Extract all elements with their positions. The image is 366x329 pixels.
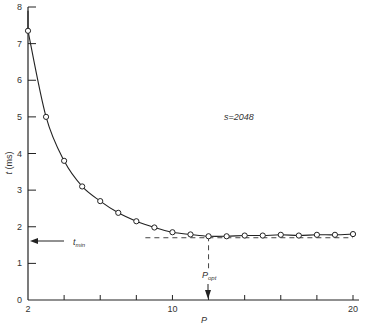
axis-ticks: 01234567821020 [17, 2, 358, 314]
y-tick-label: 7 [17, 39, 22, 49]
x-tick-label: 10 [167, 304, 177, 314]
data-point-marker [350, 231, 355, 236]
x-tick-label: 2 [25, 304, 30, 314]
axes [28, 7, 359, 300]
x-axis-label: P [201, 315, 207, 325]
data-point-marker [80, 184, 85, 189]
chart-plot: 01234567821020 t (ms) P s=2048 tmin Popt [0, 0, 366, 329]
y-axis-label: t (ms) [4, 151, 14, 174]
data-point-marker [134, 219, 139, 224]
data-point-marker [98, 199, 103, 204]
x-tick-label: 20 [348, 304, 358, 314]
data-point-marker [62, 158, 67, 163]
data-point-marker [224, 234, 229, 239]
y-tick-label: 3 [17, 185, 22, 195]
data-point-marker [188, 232, 193, 237]
popt-label: Popt [202, 270, 217, 281]
fitted-curve [28, 11, 353, 237]
data-point-marker [314, 232, 319, 237]
data-point-marker [332, 232, 337, 237]
y-tick-label: 8 [17, 2, 22, 12]
data-point-marker [206, 234, 211, 239]
data-point-marker [260, 233, 265, 238]
popt-arrowhead-icon [205, 290, 211, 299]
data-point-marker [242, 233, 247, 238]
y-tick-label: 6 [17, 75, 22, 85]
y-tick-label: 2 [17, 222, 22, 232]
data-point-marker [43, 114, 48, 119]
y-tick-label: 0 [17, 295, 22, 305]
data-point-marker [296, 233, 301, 238]
tmin-annotation: tmin [30, 237, 86, 248]
data-points [25, 28, 355, 239]
data-point-marker [25, 28, 30, 33]
data-point-marker [152, 225, 157, 230]
tmin-arrowhead-icon [30, 238, 38, 244]
y-axis-label-main: t [4, 172, 14, 175]
tmin-label: tmin [73, 237, 86, 248]
data-point-marker [278, 232, 283, 237]
popt-annotation: Popt [202, 270, 217, 299]
y-tick-label: 4 [17, 149, 22, 159]
y-axis-label-unit: (ms) [4, 151, 14, 169]
y-tick-label: 1 [17, 258, 22, 268]
data-point-marker [116, 210, 121, 215]
reference-lines [145, 236, 353, 269]
y-tick-label: 5 [17, 112, 22, 122]
data-point-marker [170, 230, 175, 235]
series-annotation: s=2048 [224, 112, 254, 122]
